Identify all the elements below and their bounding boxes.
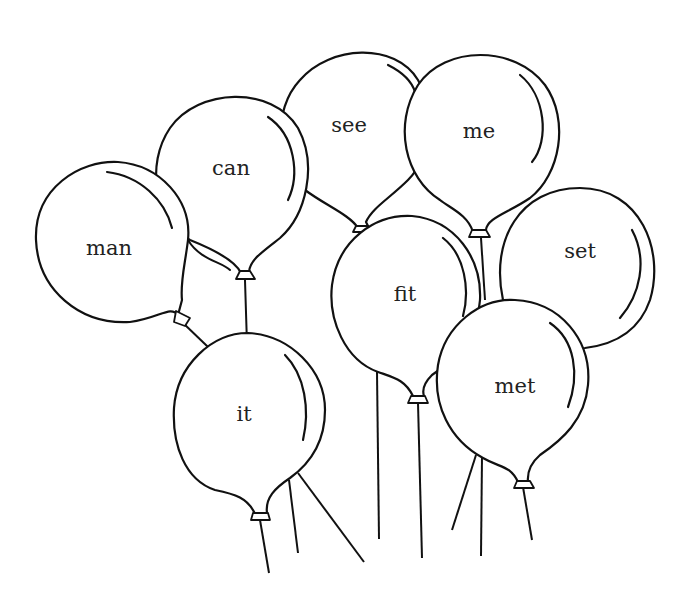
string-fit-left [377, 372, 379, 539]
balloon-it[interactable]: it [174, 333, 325, 520]
balloon-word-man: man [86, 236, 132, 260]
string-met-left-1 [452, 455, 476, 530]
string-behind-it-2 [298, 473, 364, 562]
string-me [481, 238, 485, 300]
balloon-worksheet: set see me can man fit [0, 0, 691, 607]
string-behind-it-1 [289, 480, 298, 553]
balloon-word-met: met [495, 374, 536, 398]
balloon-word-fit: fit [394, 282, 417, 306]
balloon-word-set: set [564, 239, 596, 263]
string-it [260, 520, 269, 573]
balloon-word-it: it [236, 402, 252, 426]
balloon-met[interactable]: met [437, 300, 588, 488]
string-met-left-2 [481, 456, 482, 556]
string-fit [418, 403, 422, 558]
balloon-word-can: can [212, 156, 250, 180]
string-met [523, 487, 532, 540]
balloon-word-me: me [463, 119, 495, 143]
balloon-word-see: see [331, 113, 367, 137]
